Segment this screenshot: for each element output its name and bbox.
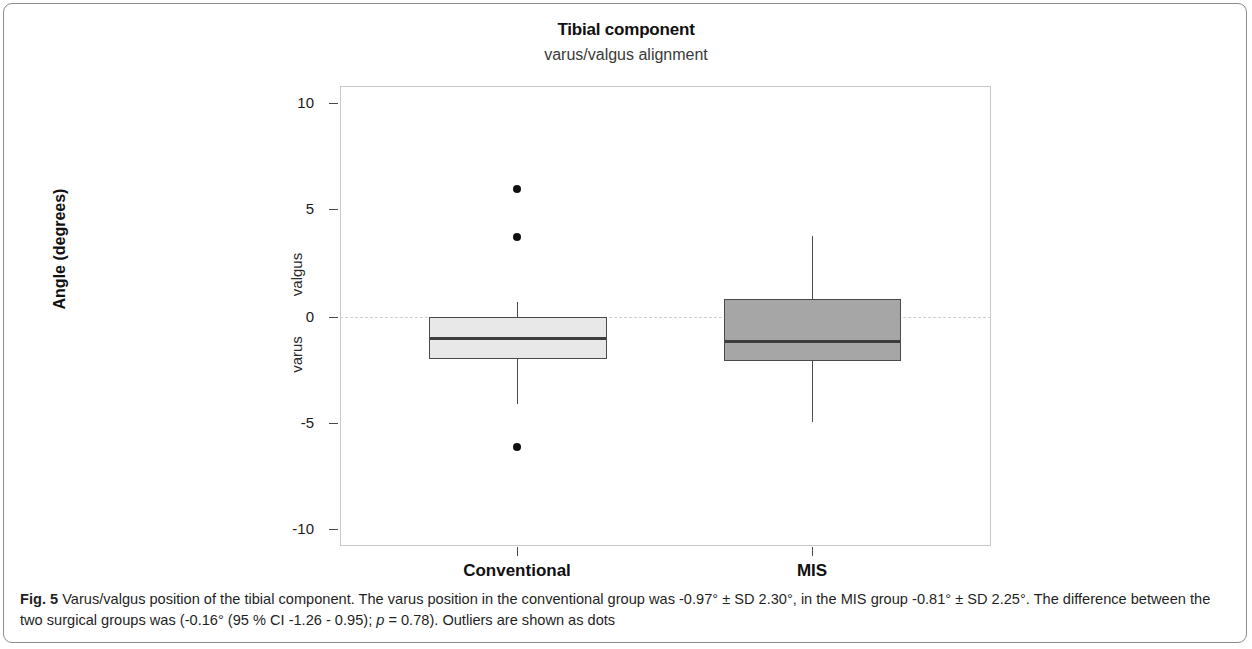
y-tick-label-10: 10 <box>254 94 314 111</box>
box-mis <box>724 299 901 361</box>
x-tick-mark-mis <box>812 547 813 556</box>
caption-figure-number: Fig. 5 <box>20 591 58 607</box>
caption-line-1: Varus/valgus position of the tibial comp… <box>58 591 908 607</box>
y-tick-label-neg5: -5 <box>254 414 314 431</box>
whisker-upper-mis <box>812 236 813 299</box>
y-tick-label-5: 5 <box>254 200 314 217</box>
median-line-conventional <box>430 337 606 340</box>
plot-area: Angle (degrees) valgus varus 10 5 0 -5 -… <box>4 4 1248 584</box>
outlier-point <box>513 443 521 451</box>
x-tick-label-mis: MIS <box>682 561 942 581</box>
outlier-point <box>513 233 521 241</box>
outlier-point <box>513 185 521 193</box>
figure-card: Tibial component varus/valgus alignment … <box>3 3 1247 643</box>
y-tick-mark-neg5 <box>329 423 338 424</box>
y-axis-title: Angle (degrees) <box>51 149 69 349</box>
y-tick-label-0: 0 <box>254 308 314 325</box>
y-tick-label-neg10: -10 <box>254 520 314 537</box>
whisker-lower-conventional <box>517 358 518 404</box>
y-tick-mark-10 <box>329 103 338 104</box>
whisker-lower-mis <box>812 361 813 422</box>
figure-caption: Fig. 5 Varus/valgus position of the tibi… <box>20 589 1234 630</box>
median-line-mis <box>725 340 900 343</box>
y-tick-mark-5 <box>329 209 338 210</box>
caption-line-3: = 0.78). Outliers are shown as dots <box>384 612 615 628</box>
y-tick-mark-neg10 <box>329 529 338 530</box>
y-tick-mark-0 <box>329 317 338 318</box>
x-tick-label-conventional: Conventional <box>387 561 647 581</box>
x-tick-mark-conventional <box>517 547 518 556</box>
whisker-upper-conventional <box>517 302 518 318</box>
